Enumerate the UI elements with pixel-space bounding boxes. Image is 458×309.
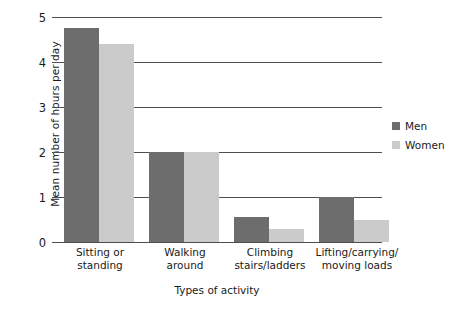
bar-group-climbing-stairs-ladders: [234, 17, 306, 242]
y-tick-label-3: 3: [39, 101, 46, 115]
bar-women-sitting-or-standing[interactable]: [99, 44, 134, 242]
x-label-line2: around: [139, 259, 231, 272]
plot-area: 5 4 3 2 1 0: [52, 17, 382, 242]
bar-women-lifting-carrying-moving-loads[interactable]: [354, 220, 389, 243]
bar-men-walking-around[interactable]: [149, 152, 184, 242]
x-label-sitting-or-standing: Sitting or standing: [54, 246, 146, 272]
x-label-line2: moving loads: [307, 259, 407, 272]
x-label-lifting-carrying-moving-loads: Lifting/carrying/ moving loads: [307, 246, 407, 272]
gridline-0-axis: 0: [52, 242, 382, 243]
x-label-line1: Walking: [139, 246, 231, 259]
y-tick-label-2: 2: [39, 146, 46, 160]
bar-men-climbing-stairs-ladders[interactable]: [234, 217, 269, 242]
x-label-climbing-stairs-ladders: Climbing stairs/ladders: [224, 246, 316, 272]
bar-group-sitting-or-standing: [64, 17, 136, 242]
x-label-walking-around: Walking around: [139, 246, 231, 272]
x-axis-category-labels: Sitting or standing Walking around Climb…: [52, 246, 382, 278]
y-tick-label-5: 5: [39, 11, 46, 25]
legend-label-men: Men: [405, 120, 427, 132]
bar-women-walking-around[interactable]: [184, 152, 219, 242]
bar-women-climbing-stairs-ladders[interactable]: [269, 229, 304, 243]
legend-item-men[interactable]: Men: [392, 118, 445, 134]
bar-group-walking-around: [149, 17, 221, 242]
y-tick-label-0: 0: [39, 236, 46, 250]
legend-swatch-men-icon: [392, 122, 400, 130]
bar-chart: Mean number of hours per day 5 4 3 2 1 0: [0, 0, 458, 309]
bar-men-sitting-or-standing[interactable]: [64, 28, 99, 242]
bar-group-lifting-carrying-moving-loads: [319, 17, 391, 242]
legend-swatch-women-icon: [392, 141, 400, 149]
x-label-line1: Lifting/carrying/: [307, 246, 407, 259]
x-label-line1: Climbing: [224, 246, 316, 259]
legend-label-women: Women: [405, 139, 445, 151]
x-label-line2: stairs/ladders: [224, 259, 316, 272]
bar-men-lifting-carrying-moving-loads[interactable]: [319, 197, 354, 242]
legend-item-women[interactable]: Women: [392, 137, 445, 153]
y-tick-label-4: 4: [39, 56, 46, 70]
bars-layer: [52, 17, 382, 242]
legend: Men Women: [392, 118, 445, 156]
x-label-line2: standing: [54, 259, 146, 272]
y-tick-label-1: 1: [39, 191, 46, 205]
x-axis-title: Types of activity: [52, 284, 382, 296]
x-label-line1: Sitting or: [54, 246, 146, 259]
